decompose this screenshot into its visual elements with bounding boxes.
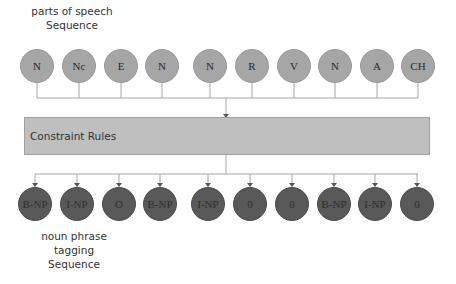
np-node: I-NP: [191, 187, 225, 221]
np-node: 0: [275, 187, 309, 221]
pos-node: N: [318, 49, 352, 83]
np-node: B-NP: [317, 187, 351, 221]
np-sequence-title: noun phrase tagging Sequence: [24, 229, 124, 271]
np-title-line2: tagging: [24, 243, 124, 257]
pos-node: N: [145, 49, 179, 83]
np-node: I-NP: [358, 187, 392, 221]
np-node: 0: [400, 187, 434, 221]
pos-node: CH: [401, 49, 435, 83]
np-title-line3: Sequence: [24, 257, 124, 271]
constraint-rules-box: Constraint Rules: [24, 117, 430, 155]
pos-node: Nc: [62, 49, 96, 83]
pos-node: R: [235, 49, 269, 83]
pos-node: N: [193, 49, 227, 83]
pos-node: E: [104, 49, 138, 83]
pos-node: V: [277, 49, 311, 83]
np-title-line1: noun phrase: [24, 229, 124, 243]
np-node: 0: [233, 187, 267, 221]
constraint-rules-label: Constraint Rules: [30, 130, 116, 142]
np-node: B-NP: [143, 187, 177, 221]
np-node: I-NP: [60, 187, 94, 221]
pos-node: A: [360, 49, 394, 83]
np-node: B-NP: [18, 187, 52, 221]
pos-node: N: [20, 49, 54, 83]
np-node: O: [102, 187, 136, 221]
